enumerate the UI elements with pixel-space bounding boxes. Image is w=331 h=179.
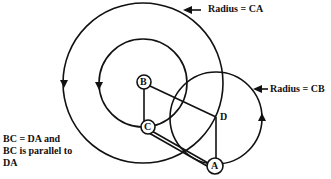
point-d-label: D <box>220 111 227 122</box>
note-line-1: BC = DA and <box>3 133 93 145</box>
arrow-right-circle <box>258 113 266 121</box>
arrow-top-pointer <box>183 6 192 14</box>
arrow-outer-left <box>60 80 68 88</box>
point-b-label: B <box>140 76 147 87</box>
point-c-label: C <box>144 121 151 132</box>
note-line-3: DA <box>3 157 93 169</box>
relationship-note: BC = DA and BC is parallel to DA <box>3 133 93 169</box>
segment-ca-1 <box>150 130 208 163</box>
note-line-2: BC is parallel to <box>3 145 93 157</box>
point-a-label: A <box>211 160 218 171</box>
radius-ca-label: Radius = CA <box>208 3 263 14</box>
arrow-inner-left <box>95 82 103 90</box>
radius-cb-label: Radius = CB <box>270 83 325 94</box>
segment-bd <box>150 86 216 117</box>
